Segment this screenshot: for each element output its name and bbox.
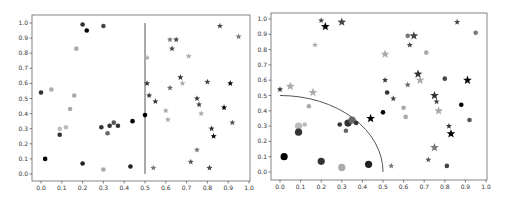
data-point-circle [365, 161, 372, 168]
y-tick-label: 1.0 [257, 15, 267, 22]
data-point-circle [385, 90, 390, 95]
y-tick-label: 0.5 [257, 92, 267, 99]
y-tick-label: 0.0 [18, 170, 28, 177]
data-point-circle [43, 157, 48, 162]
data-point-circle [467, 118, 472, 123]
x-tick-label: 0.0 [275, 183, 285, 190]
x-tick-label: 0.2 [316, 183, 326, 190]
data-point-circle [143, 113, 148, 118]
plot-frame [32, 15, 250, 181]
y-tick-label: 0.7 [257, 61, 267, 68]
data-point-circle [64, 125, 69, 130]
y-tick-label: 0.1 [18, 155, 28, 162]
data-point-circle [68, 107, 73, 112]
data-point-circle [295, 123, 302, 130]
data-point-circle [281, 153, 288, 160]
data-point-circle [101, 24, 106, 29]
data-point-circle [354, 121, 359, 126]
y-tick-label: 0.8 [18, 49, 28, 56]
data-point-circle [99, 125, 104, 130]
y-tick-label: 0.6 [18, 79, 28, 86]
y-tick-label: 0.6 [257, 76, 267, 83]
data-point-circle [307, 104, 312, 109]
y-tick-label: 0.7 [18, 64, 28, 71]
data-point-circle [84, 28, 89, 33]
data-point-circle [105, 131, 110, 136]
data-point-circle [295, 129, 302, 136]
y-tick-label: 0.3 [18, 125, 28, 132]
data-point-circle [74, 46, 79, 51]
x-tick-label: 0.2 [78, 184, 88, 191]
scatter-panel-vertical-boundary: 0.00.10.20.30.40.50.60.70.80.91.00.00.10… [18, 15, 253, 191]
data-point-circle [112, 120, 117, 125]
data-point-circle [57, 126, 62, 131]
x-tick-label: 0.4 [119, 184, 129, 191]
y-tick-label: 0.1 [257, 153, 267, 160]
data-point-circle [128, 164, 133, 169]
data-point-circle [443, 76, 448, 81]
data-point-circle [116, 123, 121, 128]
data-point-circle [72, 93, 77, 98]
plot-frame [271, 13, 487, 180]
data-point-circle [101, 167, 106, 172]
data-point-circle [57, 132, 62, 137]
data-point-circle [107, 123, 112, 128]
data-point-circle [130, 119, 135, 124]
data-point-circle [80, 22, 85, 27]
data-point-circle [424, 50, 429, 55]
x-tick-label: 1.0 [244, 184, 254, 191]
data-point-circle [459, 102, 464, 107]
data-point-circle [80, 161, 85, 166]
y-tick-label: 0.2 [18, 140, 28, 147]
y-tick-label: 0.3 [257, 122, 267, 129]
data-point-circle [49, 87, 54, 92]
x-tick-label: 1.0 [481, 183, 491, 190]
x-tick-label: 0.1 [57, 184, 67, 191]
data-point-circle [381, 110, 386, 115]
y-tick-label: 0.9 [18, 34, 28, 41]
y-tick-label: 0.4 [257, 107, 267, 114]
data-point-circle [473, 30, 478, 35]
x-tick-label: 0.4 [358, 183, 368, 190]
x-tick-label: 0.8 [203, 184, 213, 191]
y-tick-label: 1.0 [18, 19, 28, 26]
y-tick-label: 0.0 [257, 168, 267, 175]
x-tick-label: 0.3 [337, 183, 347, 190]
data-point-circle [405, 34, 410, 39]
x-tick-label: 0.9 [223, 184, 233, 191]
data-point-circle [337, 122, 342, 127]
data-point-circle [302, 122, 307, 127]
x-tick-label: 0.8 [440, 183, 450, 190]
x-tick-label: 0.5 [378, 183, 388, 190]
data-point-circle [344, 128, 349, 133]
data-point-circle [445, 164, 450, 169]
x-tick-label: 0.0 [36, 184, 46, 191]
x-tick-label: 0.5 [140, 184, 150, 191]
x-tick-label: 0.1 [296, 183, 306, 190]
y-tick-label: 0.9 [257, 30, 267, 37]
scatter-panel-circular-boundary: 0.00.10.20.30.40.50.60.70.80.91.00.00.10… [257, 13, 490, 190]
y-tick-label: 0.8 [257, 46, 267, 53]
figure-canvas: 0.00.10.20.30.40.50.60.70.80.91.00.00.10… [0, 0, 508, 201]
data-point-circle [338, 164, 345, 171]
x-tick-label: 0.7 [419, 183, 429, 190]
data-point-circle [39, 90, 44, 95]
y-tick-label: 0.4 [18, 110, 28, 117]
x-tick-label: 0.3 [99, 184, 109, 191]
x-tick-label: 0.6 [161, 184, 171, 191]
y-tick-label: 0.5 [18, 95, 28, 102]
data-point-circle [401, 105, 406, 110]
y-tick-label: 0.2 [257, 137, 267, 144]
x-tick-label: 0.9 [461, 183, 471, 190]
x-tick-label: 0.6 [399, 183, 409, 190]
x-tick-label: 0.7 [182, 184, 192, 191]
data-point-circle [318, 158, 325, 165]
data-point-circle [403, 115, 408, 120]
